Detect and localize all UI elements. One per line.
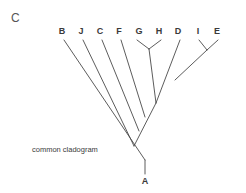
tip-label-J: J	[78, 27, 83, 36]
branch-IE-stem	[175, 50, 207, 80]
tip-label-I: I	[197, 27, 200, 36]
tip-label-C: C	[97, 27, 104, 36]
branch-I-branch	[199, 40, 207, 50]
cladogram-tree-drawing	[0, 0, 246, 193]
tip-label-G: G	[135, 27, 142, 36]
branch-F-branch	[121, 40, 145, 117]
branch-GH-stem	[149, 49, 156, 103]
branch-E-branch	[207, 40, 218, 50]
tip-label-F: F	[116, 27, 122, 36]
branch-B-branch	[64, 40, 145, 160]
branch-backbone-spine	[134, 103, 156, 146]
branch-D-branch	[156, 40, 180, 103]
branch-G-branch	[137, 40, 149, 49]
root-label-A: A	[142, 177, 149, 186]
cladogram-figure: C BJCFGHDIE A common cladogram	[0, 0, 246, 193]
tip-label-D: D	[175, 27, 182, 36]
tip-label-E: E	[214, 27, 220, 36]
figure-caption: common cladogram	[32, 146, 98, 154]
branch-H-branch	[149, 40, 161, 49]
tip-label-H: H	[156, 27, 163, 36]
tip-label-B: B	[59, 27, 66, 36]
